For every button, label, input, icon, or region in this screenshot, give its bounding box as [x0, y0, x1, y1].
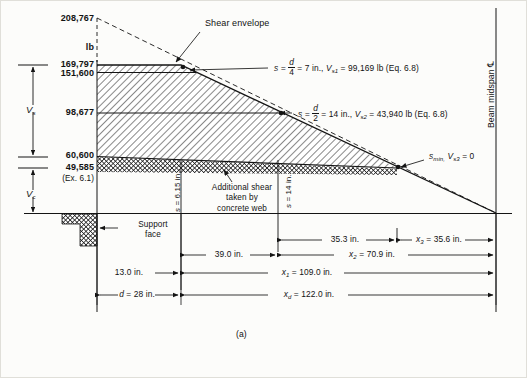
support-block — [62, 214, 97, 246]
bracket-vs-sub: s — [32, 110, 35, 116]
additional-shear-line-3: concrete web — [196, 204, 288, 214]
point-marker-s1 — [181, 65, 186, 70]
label-stirrup-spacing-b: s = 14 in. — [285, 174, 294, 208]
spacing-3-force-value: = 0 — [460, 151, 475, 161]
axis-value-vs1: 151,600 — [38, 68, 94, 78]
axis-value-mid: 98,677 — [38, 107, 94, 117]
dim-xd-value: = 122.0 in. — [291, 289, 334, 299]
spacing-1-force-value: = 99,169 lb (Eq. 6.8) — [338, 63, 419, 73]
beam-midspan-text: Beam midspan — [486, 69, 496, 128]
label-stirrup-spacing-a: s = 6.15 in. — [174, 171, 183, 212]
leader-spacing-3 — [401, 160, 424, 167]
dim-label-39-0: 39.0 in. — [206, 250, 252, 259]
stirrup-a-text: = 6.15 in. — [173, 171, 182, 207]
axis-value-vc-reference: (Ex. 6.1) — [34, 174, 94, 183]
axis-value-vc-ex: 49,585 — [38, 162, 94, 172]
spacing-1-suffix: = 7 in., — [295, 63, 324, 73]
bracket-label-vc: Vc — [26, 189, 36, 201]
figure-page: 208,767 lb 169,797 151,600 98,677 60,600… — [0, 0, 527, 378]
spacing-2-fraction: d2 — [312, 104, 319, 122]
point-marker-s3 — [396, 165, 401, 170]
dim-x1-value: = 109.0 in. — [289, 267, 332, 277]
annotation-spacing-2: s = d2 = 14 in., Vs2 = 43,940 lb (Eq. 6.… — [298, 104, 448, 122]
stirrup-a-var: s — [173, 208, 182, 212]
annotation-spacing-1: s = d4 = 7 in., Vs1 = 99,169 lb (Eq. 6.8… — [274, 58, 419, 76]
stirrup-b-text: = 14 in. — [284, 174, 293, 204]
spacing-3-sub: min, — [433, 156, 445, 162]
axis-units-label: lb — [38, 42, 94, 52]
spacing-2-denominator: 2 — [312, 114, 319, 123]
additional-shear-line-2: taken by — [196, 193, 288, 203]
figure-caption: (a) — [236, 330, 247, 340]
spacing-1-fraction: d4 — [288, 58, 295, 76]
leader-shear-envelope — [176, 32, 200, 62]
dim-x2-value: = 70.9 in. — [357, 249, 395, 259]
spacing-1-prefix: s = — [274, 63, 288, 73]
support-face-line-2: face — [124, 230, 182, 240]
spacing-2-prefix: s = — [298, 109, 312, 119]
dim-d-value: = 28 in. — [124, 289, 155, 299]
dim-label-x3: x3 = 35.6 in. — [410, 235, 468, 246]
support-face-line-1: Support — [124, 220, 182, 230]
spacing-2-force-value: = 43,940 lb (Eq. 6.8) — [367, 109, 448, 119]
dim-label-35-3: 35.3 in. — [322, 235, 368, 244]
additional-shear-line-1: Additional shear — [196, 183, 288, 193]
stirrup-b-var: s — [284, 204, 293, 208]
dim-label-13-0: 13.0 in. — [104, 268, 154, 277]
centerline-icon: ℄ — [486, 61, 496, 67]
label-beam-midspan: Beam midspan ℄ — [486, 61, 497, 128]
dim-label-xd: xd = 122.0 in. — [268, 290, 350, 301]
label-shear-envelope: Shear envelope — [205, 18, 269, 28]
dim-label-d: d = 28 in. — [118, 290, 156, 299]
dim-label-x1: x1 = 109.0 in. — [268, 268, 346, 279]
bracket-vc-sub: c — [32, 194, 35, 200]
leader-spacing-1 — [190, 68, 268, 70]
point-marker-s2 — [279, 111, 284, 116]
bracket-label-vs: Vs — [26, 105, 36, 117]
axis-value-vc: 60,600 — [38, 150, 94, 160]
spacing-2-suffix: = 14 in., — [319, 109, 352, 119]
dim-x3-value: = 35.6 in. — [424, 234, 462, 244]
label-support-face: Support face — [124, 220, 182, 241]
dim-label-x2: x2 = 70.9 in. — [334, 250, 410, 261]
annotation-spacing-3: smin, Vs3 = 0 — [429, 152, 474, 163]
label-additional-shear: Additional shear taken by concrete web — [196, 183, 288, 214]
spacing-1-denominator: 4 — [288, 68, 295, 77]
axis-value-peak: 208,767 — [38, 13, 94, 23]
